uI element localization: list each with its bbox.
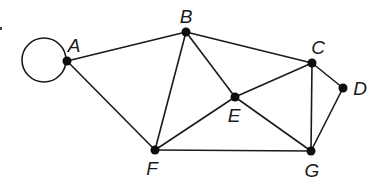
node-label-a: A (67, 35, 81, 56)
node-label-f: F (146, 158, 159, 179)
node-c (308, 59, 317, 68)
node-label-b: B (180, 6, 193, 27)
node-label-e: E (228, 105, 241, 126)
node-b (182, 28, 191, 37)
node-f (151, 146, 160, 155)
nodes-group (63, 28, 348, 156)
edge-f-g (155, 150, 311, 151)
edges-group (67, 32, 343, 151)
edge-c-e (235, 63, 312, 97)
edge-a-b (67, 32, 186, 61)
edge-d-g (311, 88, 343, 151)
loops-group (22, 38, 66, 82)
labels-group: ABCDEFG (67, 6, 367, 181)
loop-a (22, 38, 66, 82)
edge-c-g (311, 63, 312, 151)
node-label-d: D (353, 78, 367, 99)
edge-e-g (235, 97, 311, 151)
node-e (231, 93, 240, 102)
node-a (63, 57, 72, 66)
stray-mark (0, 27, 2, 30)
edge-c-d (312, 63, 343, 88)
graph-diagram: ABCDEFG (0, 0, 368, 187)
edge-a-f (67, 61, 155, 150)
node-label-g: G (305, 160, 320, 181)
node-g (307, 147, 316, 156)
node-d (339, 84, 348, 93)
node-label-c: C (311, 37, 325, 58)
